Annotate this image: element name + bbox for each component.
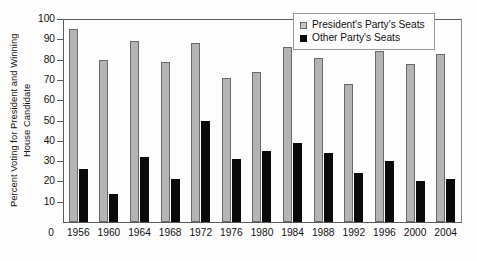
bar-other-party-1980	[262, 151, 271, 222]
bar-group	[124, 19, 155, 222]
bar-other-party-1992	[354, 173, 363, 222]
y-axis-tick-label-10: 10	[15, 197, 55, 207]
bar-group	[216, 19, 247, 222]
legend-label-presidents-party: President's Party's Seats	[312, 20, 425, 30]
bar-other-party-1976	[232, 159, 241, 222]
bar-presidents-party-1972	[191, 43, 200, 222]
bar-presidents-party-1992	[344, 84, 353, 222]
bar-presidents-party-1964	[130, 41, 139, 222]
y-axis-tick-label-50: 50	[15, 116, 55, 126]
y-axis-tick-label-30: 30	[15, 156, 55, 166]
bar-presidents-party-1984	[283, 47, 292, 222]
plot-frame-right	[461, 19, 462, 223]
x-axis-tick-label-2004: 2004	[426, 228, 466, 238]
bar-other-party-1964	[140, 157, 149, 222]
y-axis-tick-label-80: 80	[15, 55, 55, 65]
y-axis-tick-label-70: 70	[15, 75, 55, 85]
bar-group	[155, 19, 186, 222]
y-axis-tick-label-20: 20	[15, 176, 55, 186]
bar-other-party-1988	[324, 153, 333, 222]
bar-group	[63, 19, 94, 222]
bar-other-party-1996	[385, 161, 394, 222]
bar-presidents-party-1976	[222, 78, 231, 222]
plot-frame-bottom	[63, 222, 462, 223]
y-axis-tick-label-100: 100	[15, 14, 55, 24]
page-bleed-through-text	[0, 252, 477, 261]
legend-item-other-party: Other Party's Seats	[300, 32, 425, 44]
bar-other-party-1956	[79, 169, 88, 222]
legend-swatch-light-gray-square	[300, 22, 307, 29]
bar-other-party-1960	[109, 194, 118, 222]
bar-group	[94, 19, 125, 222]
bar-presidents-party-1980	[252, 72, 261, 222]
bar-other-party-2004	[446, 179, 455, 222]
bar-other-party-1984	[293, 143, 302, 222]
y-axis-tick-label-40: 40	[15, 136, 55, 146]
bar-other-party-1968	[171, 179, 180, 222]
chart-figure: Percent Voting for President and Winning…	[0, 0, 477, 261]
legend-label-other-party: Other Party's Seats	[312, 33, 400, 43]
bar-other-party-1972	[201, 121, 210, 223]
bar-group	[430, 19, 461, 222]
bar-presidents-party-1956	[69, 29, 78, 222]
legend-item-presidents-party: President's Party's Seats	[300, 19, 425, 31]
bar-presidents-party-2000	[406, 64, 415, 222]
legend-swatch-black-square	[300, 35, 307, 42]
bar-group	[247, 19, 278, 222]
y-axis-tick-label-60: 60	[15, 95, 55, 105]
bar-presidents-party-1988	[314, 58, 323, 222]
bar-presidents-party-1968	[161, 62, 170, 222]
bar-presidents-party-2004	[436, 54, 445, 222]
y-axis-zero-label: 0	[30, 228, 54, 238]
bar-group	[185, 19, 216, 222]
bar-presidents-party-1960	[99, 60, 108, 222]
bar-other-party-2000	[416, 181, 425, 222]
bar-presidents-party-1996	[375, 51, 384, 222]
y-axis-tick-label-90: 90	[15, 34, 55, 44]
chart-legend: President's Party's Seats Other Party's …	[293, 13, 435, 50]
